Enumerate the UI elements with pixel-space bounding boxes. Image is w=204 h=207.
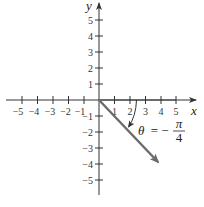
x-tick-labels: −5 −4 −3 −2 −1 1 2 3 4 5 xyxy=(13,106,179,117)
y-axis-label: y xyxy=(84,0,92,13)
x-axis-label: x xyxy=(190,103,197,118)
svg-text:θ = −: θ = − xyxy=(138,123,169,138)
svg-text:−3: −3 xyxy=(82,143,93,154)
svg-text:−2: −2 xyxy=(82,127,93,138)
coordinate-plane: −5 −4 −3 −2 −1 1 2 3 4 5 5 4 3 2 1 −1 −2… xyxy=(0,0,204,207)
svg-text:π: π xyxy=(176,116,183,131)
svg-text:−4: −4 xyxy=(29,106,40,117)
angle-label: θ = − π 4 xyxy=(138,116,185,145)
svg-text:3: 3 xyxy=(88,47,93,58)
svg-text:−4: −4 xyxy=(82,159,93,170)
svg-text:1: 1 xyxy=(88,79,93,90)
svg-text:4: 4 xyxy=(88,31,93,42)
svg-text:2: 2 xyxy=(128,106,133,117)
svg-text:−2: −2 xyxy=(60,106,71,117)
svg-text:4: 4 xyxy=(176,130,183,145)
svg-text:3: 3 xyxy=(143,106,148,117)
svg-text:5: 5 xyxy=(88,15,93,26)
svg-text:4: 4 xyxy=(159,106,164,117)
svg-text:2: 2 xyxy=(88,63,93,74)
svg-text:−1: −1 xyxy=(82,111,93,122)
svg-text:−3: −3 xyxy=(45,106,56,117)
svg-text:−5: −5 xyxy=(82,175,93,186)
svg-text:−5: −5 xyxy=(13,106,24,117)
